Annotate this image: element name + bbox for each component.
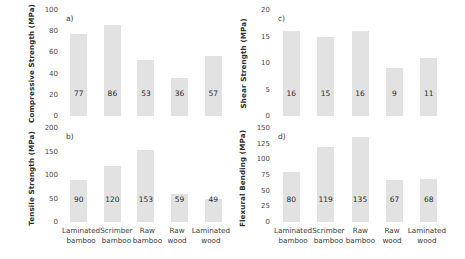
bar: 135 [352,137,369,222]
figure-bamboo-wood-mechanical-properties: Compressive Strength (MPa) 020406080100 … [0,0,465,259]
y-tick-b-50: 50 [49,195,58,203]
bar: 53 [137,60,154,116]
y-tick-d-150: 150 [257,124,270,132]
bar-value-label: 49 [208,195,218,204]
bar-column: 80 [274,128,308,222]
y-tick-a-0: 0 [54,112,58,120]
bar: 16 [352,31,369,116]
y-tick-a-80: 80 [49,27,58,35]
bar-value-label: 9 [392,89,397,98]
y-tick-c-15: 15 [261,33,270,41]
x-axis-labels-d: LaminatedbambooScrimberbambooRawbambooRa… [274,224,446,256]
bar-column: 59 [163,128,197,222]
bar-column: 11 [412,10,446,116]
bar-value-label: 90 [74,195,84,204]
x-axis-label: Rawwood [376,226,408,245]
bar: 57 [205,56,222,116]
y-tick-d-75: 75 [261,171,270,179]
bar-column: 77 [62,10,96,116]
bar: 153 [137,150,154,222]
bar: 119 [317,147,334,222]
bar-group-a: 7786533657 [62,10,230,116]
x-axis-label: Scrimberbamboo [100,226,132,245]
y-tick-c-0: 0 [266,112,270,120]
bar-value-label: 135 [353,195,367,204]
y-tick-d-25: 25 [261,202,270,210]
bar-column: 57 [196,10,230,116]
bar-column: 153 [129,128,163,222]
x-axis-label: Rawwood [162,226,192,245]
y-tick-b-150: 150 [45,148,58,156]
bar-value-label: 36 [175,89,185,98]
bar-column: 16 [343,10,377,116]
plot-area-d: d) 801191356768 [274,128,446,222]
x-axis-label: Laminatedwood [408,226,446,245]
y-tick-c-5: 5 [266,86,270,94]
bar: 16 [283,31,300,116]
bar-value-label: 15 [321,89,331,98]
y-axis-ticks-d: 0255075100125150 [250,128,272,222]
y-tick-a-100: 100 [45,6,58,14]
x-axis-label: Rawbamboo [345,226,377,245]
bar-value-label: 80 [286,195,296,204]
plot-area-c: c) 161516911 [274,10,446,116]
bar: 68 [420,179,437,222]
bar-value-label: 11 [424,89,434,98]
bar: 15 [317,37,334,117]
x-axis-label: Laminatedwood [192,226,230,245]
chart-panel-c: Shear Strength (MPa) 05101520 c) 1615169… [236,10,448,122]
y-axis-ticks-c: 05101520 [250,10,272,116]
bar: 59 [171,194,188,222]
bar-column: 67 [377,128,411,222]
bar-column: 53 [129,10,163,116]
y-tick-b-200: 200 [45,124,58,132]
bar-value-label: 153 [139,195,153,204]
y-tick-d-50: 50 [261,187,270,195]
bar: 49 [205,199,222,222]
bar-column: 119 [308,128,342,222]
y-tick-d-125: 125 [257,140,270,148]
bar-value-label: 16 [355,89,365,98]
bar-column: 9 [377,10,411,116]
bar-column: 68 [412,128,446,222]
bar-column: 90 [62,128,96,222]
plot-area-a: a) 7786533657 [62,10,230,116]
x-axis-labels-b: LaminatedbambooScrimberbambooRawbambooRa… [62,224,230,256]
bar-value-label: 119 [318,195,332,204]
y-axis-ticks-a: 020406080100 [38,10,60,116]
bar: 86 [104,25,121,116]
y-axis-ticks-b: 050100150200 [38,128,60,222]
bar-column: 120 [96,128,130,222]
x-axis-label: Laminatedbamboo [274,226,312,245]
bar-value-label: 16 [286,89,296,98]
bar-value-label: 67 [390,195,400,204]
bar: 77 [70,34,87,116]
y-axis-label-b: Tensile Strength (MPa) [24,128,38,228]
bar-value-label: 86 [108,89,118,98]
y-axis-label-c: Shear Strength (MPa) [236,10,250,116]
bar-group-b: 901201535949 [62,128,230,222]
bar: 36 [171,78,188,116]
bar-column: 86 [96,10,130,116]
bar-value-label: 59 [175,195,185,204]
bar-column: 135 [343,128,377,222]
bar-value-label: 68 [424,195,434,204]
y-tick-c-10: 10 [261,59,270,67]
bar: 67 [386,180,403,222]
chart-panel-b: Tensile Strength (MPa) 050100150200 b) 9… [24,128,232,256]
bar-value-label: 57 [208,89,218,98]
plot-area-b: b) 901201535949 [62,128,230,222]
y-tick-b-0: 0 [54,218,58,226]
x-axis-label: Rawbamboo [133,226,163,245]
bar-column: 49 [196,128,230,222]
bar-value-label: 77 [74,89,84,98]
bar: 80 [283,172,300,222]
chart-panel-d: Flexural Bending (MPa) 0255075100125150 … [236,128,448,256]
bar-column: 16 [274,10,308,116]
bar: 11 [420,58,437,116]
chart-panel-a: Compressive Strength (MPa) 020406080100 … [24,10,232,122]
bar-group-c: 161516911 [274,10,446,116]
bar: 90 [70,180,87,222]
bar-column: 36 [163,10,197,116]
y-tick-d-0: 0 [266,218,270,226]
